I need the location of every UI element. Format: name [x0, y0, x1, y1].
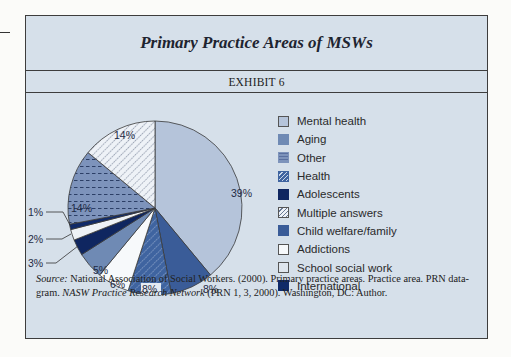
- swatch-icon: [278, 225, 289, 236]
- exhibit-panel: Primary Practice Areas of MSWs EXHIBIT 6: [25, 15, 488, 339]
- source-text-2: (PRN 1, 3, 2000). Washington, DC: Author…: [205, 287, 388, 298]
- legend-item: Multiple answers: [278, 203, 397, 221]
- label-international: 1%: [28, 206, 43, 218]
- swatch-icon: [278, 171, 289, 182]
- label-mental-health: 39%: [231, 187, 252, 199]
- legend: Mental health Aging Other Health Adolesc…: [278, 112, 397, 295]
- legend-item: Adolescents: [278, 185, 397, 203]
- label-adolescents: 3%: [28, 257, 43, 269]
- source-journal: NASW Practice Research Network: [62, 287, 204, 298]
- source-citation: Source: National Association of Social W…: [36, 272, 476, 300]
- legend-item: Mental health: [278, 112, 397, 130]
- swatch-icon: [278, 134, 289, 145]
- legend-item: Child welfare/family: [278, 222, 397, 240]
- legend-item: Addictions: [278, 240, 397, 258]
- legend-item: Other: [278, 149, 397, 167]
- label-school: 2%: [28, 233, 43, 245]
- swatch-icon: [278, 116, 289, 127]
- label-other: 14%: [71, 202, 92, 214]
- swatch-icon: [278, 207, 289, 218]
- legend-item: Health: [278, 167, 397, 185]
- margin-rule: [0, 32, 10, 33]
- legend-item: Aging: [278, 130, 397, 148]
- swatch-icon: [278, 189, 289, 200]
- label-multiple: 14%: [114, 129, 135, 141]
- swatch-icon: [278, 152, 289, 163]
- source-prefix: Source:: [36, 273, 68, 284]
- swatch-icon: [278, 244, 289, 255]
